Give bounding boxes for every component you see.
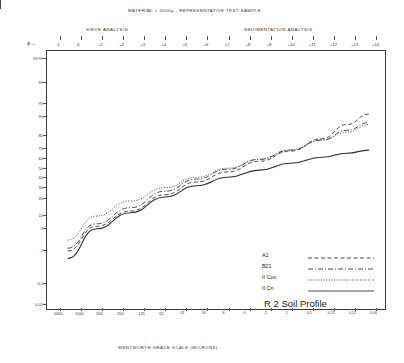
y-tick-label: 90 <box>19 114 43 119</box>
legend-label-b21: B21 <box>262 263 272 269</box>
x-tick-label: 2000 <box>54 311 63 316</box>
phi-tick-label: +10 <box>288 42 295 47</box>
y-tick-label: 40 <box>19 175 43 180</box>
y-tick <box>43 283 46 284</box>
x-tick-label: 1000 <box>75 311 84 316</box>
series-curve-ii-cn <box>68 150 369 258</box>
material-title: MATERIAL < 2000µ - REPRESENTATIVE TEST S… <box>128 8 261 13</box>
x-tick <box>123 308 124 311</box>
x-tick-label: 1 <box>286 311 288 315</box>
x-tick-label: 2 <box>265 311 267 315</box>
x-tick-label: 125 <box>138 311 145 316</box>
y-tick <box>43 177 46 178</box>
legend-swatch-b21 <box>308 268 374 270</box>
y-tick-label: 1 <box>19 248 43 253</box>
x-tick <box>376 308 377 311</box>
phi-tick-label: +14 <box>372 42 379 47</box>
y-tick-label: 30 <box>19 185 43 190</box>
sedimentation-analysis-label: SEDIMENTATION ANALYSIS <box>244 27 313 32</box>
legend-item: II Cn <box>262 285 380 296</box>
x-tick-label: 8 <box>223 311 225 315</box>
legend-swatch-ii-cox <box>308 279 374 281</box>
phi-tick <box>355 36 356 40</box>
phi-tick-label: +3 <box>140 42 145 47</box>
phi-tick-label: +8 <box>246 42 251 47</box>
y-tick-label: 5 <box>19 226 43 231</box>
chart-title: R 2 Soil Profile <box>264 298 327 309</box>
y-tick-label: 0.1 <box>19 281 43 286</box>
x-tick <box>250 308 251 311</box>
y-tick <box>43 148 46 149</box>
y-tick <box>43 250 46 251</box>
x-tick-label: 62 <box>159 311 163 316</box>
phi-tick-label: +9 <box>267 42 272 47</box>
legend-swatch-a1 <box>308 257 374 259</box>
y-tick <box>43 228 46 229</box>
x-tick <box>165 308 166 311</box>
x-tick-label: 0.5 <box>307 311 312 315</box>
phi-tick <box>60 36 61 40</box>
phi-tick <box>165 36 166 40</box>
y-tick-label: 80 <box>19 133 43 138</box>
y-tick <box>43 58 46 59</box>
y-tick <box>43 304 46 305</box>
phi-tick-label: +7 <box>225 42 230 47</box>
y-tick <box>43 135 46 136</box>
y-tick <box>43 198 46 199</box>
y-tick-label: 60 <box>19 156 43 161</box>
y-tick-label: 50 <box>19 166 43 171</box>
legend-item: II Cox <box>262 274 380 285</box>
phi-tick <box>313 36 314 40</box>
chart-figure: MATERIAL < 2000µ - REPRESENTATIVE TEST S… <box>0 0 404 363</box>
y-tick <box>43 187 46 188</box>
series-curve-ii-cox <box>68 125 369 241</box>
y-tick <box>43 168 46 169</box>
x-tick-label: 16 <box>201 311 205 315</box>
series-curve-b21 <box>68 123 369 249</box>
legend-swatch-ii-cn <box>308 290 374 292</box>
x-tick-label: 250 <box>117 311 124 316</box>
y-tick <box>43 116 46 117</box>
x-tick <box>60 308 61 311</box>
y-tick-label: 70 <box>19 146 43 151</box>
x-tick-label: 0.25 <box>328 311 335 315</box>
x-tick-label: 500 <box>96 311 103 316</box>
y-tick-label: 95 <box>19 101 43 106</box>
y-tick <box>43 103 46 104</box>
phi-tick-label: +6 <box>203 42 208 47</box>
phi-tick <box>123 36 124 40</box>
x-tick <box>229 308 230 311</box>
legend-item: A1 <box>262 252 380 263</box>
x-tick-label: 0.12 <box>349 311 356 315</box>
phi-tick-label: -1 <box>56 42 60 47</box>
y-tick-label: 20 <box>19 196 43 201</box>
legend: A1 B21 II Cox II Cn R 2 Soil Profile <box>262 252 380 296</box>
phi-tick <box>271 36 272 40</box>
phi-tick-label: +4 <box>161 42 166 47</box>
axis-divider-tick <box>0 0 1 9</box>
phi-tick <box>250 36 251 40</box>
y-tick <box>43 215 46 216</box>
phi-tick <box>186 36 187 40</box>
y-tick <box>43 82 46 83</box>
series-curve-a1 <box>68 114 369 251</box>
x-tick <box>334 308 335 311</box>
phi-tick <box>81 36 82 40</box>
phi-tick-label: +1 <box>98 42 103 47</box>
phi-tick-label: +5 <box>182 42 187 47</box>
legend-label-a1: A1 <box>262 252 269 258</box>
phi-tick-label: +13 <box>351 42 358 47</box>
x-tick <box>207 308 208 311</box>
y-tick-label: 10 <box>19 213 43 218</box>
x-axis-title: WENTWORTH GRADE SCALE (MICRONS) <box>118 345 218 350</box>
x-tick-label: 4 <box>244 311 246 315</box>
phi-tick <box>292 36 293 40</box>
phi-tick <box>334 36 335 40</box>
y-tick-label: 0.01 <box>19 302 43 307</box>
legend-item: B21 <box>262 263 380 274</box>
x-tick <box>144 308 145 311</box>
phi-tick <box>229 36 230 40</box>
x-tick-label: 31 <box>180 311 184 315</box>
phi-tick <box>144 36 145 40</box>
phi-tick-label: +2 <box>119 42 124 47</box>
